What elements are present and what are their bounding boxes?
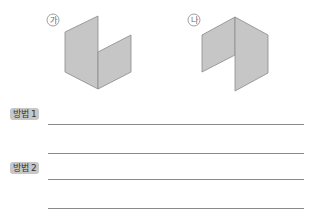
figure-na: 나 [188, 14, 268, 91]
figure-label-ga: 가 [50, 16, 58, 25]
panel-right-ga [98, 35, 131, 89]
method-1-answer-line-2[interactable] [48, 153, 304, 154]
figure-label-na: 나 [191, 16, 199, 25]
figure-ga: 가 [47, 14, 131, 89]
method-1-answer-line-1[interactable] [48, 124, 304, 125]
method-2-badge: 방법 2 [10, 162, 39, 174]
method-2-answer-line-1[interactable] [48, 179, 304, 180]
panel-left-ga [65, 16, 98, 89]
figures-area: 가 나 [0, 0, 318, 100]
panel-right-na [235, 17, 268, 91]
method-1-badge: 방법 1 [10, 108, 39, 120]
panel-left-na [202, 17, 235, 72]
method-2-answer-line-2[interactable] [48, 208, 304, 209]
